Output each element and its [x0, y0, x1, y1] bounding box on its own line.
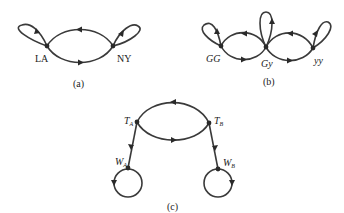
arrow-gy-to-gg: [241, 31, 247, 37]
node-label-gy: Gy: [261, 58, 273, 69]
node-label-wa: WA: [115, 156, 127, 168]
arrow-tb-to-ta: [170, 99, 176, 105]
edge-la-self-loop: [18, 24, 47, 46]
node-label-yy: yy: [313, 55, 323, 66]
node-label-la: LA: [35, 53, 49, 64]
arrow-gy-self-loop: [269, 18, 275, 24]
node-label-gg: GG: [206, 53, 220, 64]
arrow-ta-to-wa: [128, 144, 134, 150]
arrow-gg-to-gy: [241, 57, 247, 63]
edge-gy-to-gg: [221, 33, 266, 47]
node-tb: [207, 121, 212, 126]
node-yy: [311, 46, 316, 51]
diagram-b: GG Gy yy (b): [202, 12, 331, 88]
node-label-wb: WB: [223, 157, 235, 169]
arrow-wa-self-loop: [111, 180, 117, 186]
diagram-c: TA TB WA WB (c): [111, 99, 235, 213]
node-label-ny: NY: [117, 53, 131, 64]
diagram-a: LA NY (a): [18, 24, 140, 90]
arrow-yy-to-gy: [287, 31, 293, 37]
node-wb: [216, 167, 221, 172]
edge-ny-to-la: [47, 30, 113, 47]
arrow-la-to-ny: [78, 60, 84, 66]
node-gy: [264, 45, 269, 50]
state-diagrams: LA NY (a) GG Gy yy (b): [0, 0, 344, 213]
edge-la-to-ny: [47, 46, 113, 63]
node-ny: [111, 44, 116, 49]
caption-b: (b): [263, 76, 275, 88]
arrow-gy-to-yy: [287, 58, 293, 64]
edge-ta-to-tb: [137, 122, 209, 140]
node-gg: [219, 44, 224, 49]
node-label-tb: TB: [214, 115, 224, 127]
edge-gg-to-gy: [221, 46, 266, 60]
edge-ny-self-loop: [113, 25, 140, 46]
caption-a: (a): [73, 78, 84, 90]
edge-tb-to-ta: [137, 103, 209, 123]
edge-gy-to-yy: [266, 47, 313, 61]
arrow-ta-to-tb: [171, 137, 177, 143]
edge-wb-self-loop: [204, 169, 232, 197]
node-label-ta: TA: [124, 115, 134, 127]
edge-wa-self-loop: [114, 169, 142, 197]
caption-c: (c): [167, 201, 178, 213]
edge-gg-self-loop: [202, 23, 221, 46]
node-la: [45, 44, 50, 49]
arrow-ny-to-la: [76, 27, 82, 33]
arrow-wb-self-loop: [229, 180, 235, 186]
node-ta: [135, 120, 140, 125]
edge-yy-to-gy: [266, 33, 313, 48]
arrow-tb-to-wb: [212, 145, 218, 151]
